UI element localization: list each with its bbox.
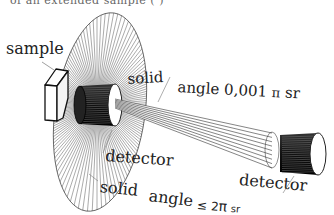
label-solid-large: solid [99,177,139,200]
sr-unit-large: sr [230,203,240,215]
near-detector-cylinder [74,84,122,126]
pi-symbol-small: π [271,85,280,100]
label-sample: sample [6,39,64,58]
leq-symbol: ≤ [197,198,208,213]
label-solid-small: solid [127,68,164,88]
solid-angle-diagram: of an extended sample ( ) [0,0,334,215]
pi-symbol-large: π [218,198,228,215]
sample-leader-line [42,62,54,70]
far-detector-cylinder [280,133,326,175]
label-angle-large-value: ≤ 2π sr [197,196,241,215]
sample-box [45,69,68,121]
sr-unit-small: sr [285,84,301,103]
